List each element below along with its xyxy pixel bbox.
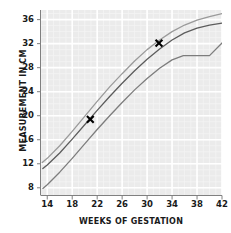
plot-area <box>41 10 222 195</box>
x-tick-label: 18 <box>61 199 83 209</box>
y-tick-label: 36 <box>8 15 34 24</box>
x-tick-label: 14 <box>36 199 58 209</box>
fundal-height-growth-chart: 812162024283236 1418222630343842 MEASURE… <box>0 0 231 233</box>
plot-canvas <box>41 10 222 195</box>
x-tick-label: 22 <box>86 199 108 209</box>
x-tick-label: 42 <box>211 199 231 209</box>
x-tick-label: 38 <box>186 199 208 209</box>
x-axis-title: WEEKS OF GESTATION <box>40 217 222 226</box>
median-curve <box>43 23 222 168</box>
y-axis-title: MEASUREMENT IN CM <box>19 26 28 176</box>
y-tick-label: 8 <box>8 183 34 192</box>
x-tick-label: 30 <box>136 199 158 209</box>
x-tick-label: 26 <box>111 199 133 209</box>
x-tick-label: 34 <box>161 199 183 209</box>
